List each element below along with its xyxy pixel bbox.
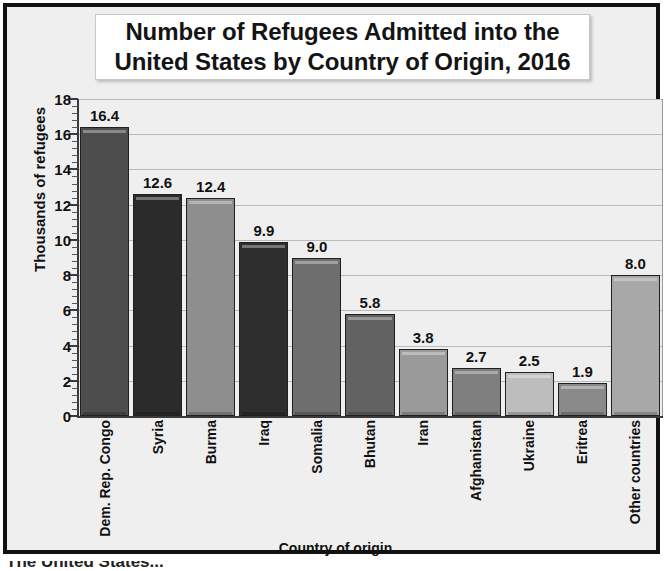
category-slot: Burma (184, 420, 237, 552)
bar[interactable] (133, 194, 182, 416)
bar[interactable] (611, 275, 660, 416)
bar-highlight (402, 352, 445, 355)
bar-value-label: 12.6 (131, 174, 184, 191)
bar-highlight (508, 375, 551, 378)
bar-slot: 12.4 (184, 99, 237, 416)
chart-frame: Number of Refugees Admitted into the Uni… (3, 3, 660, 554)
category-label: Afghanistan (468, 420, 484, 501)
category-label: Bhutan (362, 420, 378, 468)
bar[interactable] (505, 372, 554, 416)
bar-shadow (561, 412, 604, 415)
x-axis-category-labels: Dem. Rep. CongoSyriaBurmaIraqSomaliaBhut… (78, 420, 662, 552)
bar-shadow (614, 412, 657, 415)
y-axis-tick-label: 18 (47, 91, 71, 108)
bar-value-label: 9.9 (237, 222, 290, 239)
bar-shadow (189, 412, 232, 415)
bar-value-label: 8.0 (609, 255, 662, 272)
bar-shadow (402, 412, 445, 415)
bar-value-label: 12.4 (184, 178, 237, 195)
bar-shadow (83, 412, 126, 415)
category-slot: Ukraine (503, 420, 556, 552)
bar[interactable] (558, 383, 607, 416)
category-label: Iraq (256, 420, 272, 446)
plot-right-border (662, 99, 663, 417)
cut-off-caption: The United States... (6, 561, 406, 571)
bar-value-label: 2.7 (450, 348, 503, 365)
y-axis-tick-label: 8 (47, 267, 71, 284)
bar-shadow (295, 412, 338, 415)
bar-shadow (136, 412, 179, 415)
bar-slot: 5.8 (343, 99, 396, 416)
bar-slot: 2.5 (503, 99, 556, 416)
category-label: Dem. Rep. Congo (97, 420, 113, 537)
bar-value-label: 1.9 (556, 363, 609, 380)
bar-value-label: 9.0 (290, 238, 343, 255)
bar[interactable] (292, 258, 341, 417)
bar-slot: 12.6 (131, 99, 184, 416)
chart-title-line-1: Number of Refugees Admitted into the (125, 17, 559, 47)
category-slot: Iran (397, 420, 450, 552)
bar-slot: 16.4 (78, 99, 131, 416)
bar-shadow (455, 412, 498, 415)
y-axis-tick-label: 6 (47, 302, 71, 319)
bar-highlight (189, 201, 232, 204)
y-axis-tick-label: 10 (47, 231, 71, 248)
bar-shadow (348, 412, 391, 415)
category-label: Eritrea (574, 420, 590, 464)
category-slot: Iraq (237, 420, 290, 552)
category-label: Iran (415, 420, 431, 446)
x-axis-title: Country of origin (7, 540, 664, 556)
y-axis-tick-label: 4 (47, 337, 71, 354)
chart-title-box: Number of Refugees Admitted into the Uni… (95, 14, 590, 80)
y-axis-tick-label: 14 (47, 161, 71, 178)
cut-off-caption-text: The United States... (6, 561, 406, 571)
category-label: Other countries (627, 420, 643, 524)
bar[interactable] (345, 314, 394, 416)
chart-title-line-2: United States by Country of Origin, 2016 (114, 47, 570, 77)
category-label: Ukraine (521, 420, 537, 471)
bar[interactable] (80, 127, 129, 416)
chart-screenshot: Number of Refugees Admitted into the Uni… (0, 0, 669, 571)
category-slot: Afghanistan (450, 420, 503, 552)
bar-value-label: 16.4 (78, 107, 131, 124)
bar-highlight (242, 245, 285, 248)
bar-value-label: 5.8 (343, 294, 396, 311)
x-axis-line (77, 416, 663, 418)
bar-value-label: 3.8 (397, 329, 450, 346)
y-axis-tick-label: 0 (47, 408, 71, 425)
bar-highlight (561, 386, 604, 389)
bar[interactable] (399, 349, 448, 416)
bar-highlight (136, 197, 179, 200)
category-label: Burma (203, 420, 219, 464)
bar[interactable] (239, 242, 288, 416)
bar-slot: 2.7 (450, 99, 503, 416)
y-axis-tick-label: 12 (47, 196, 71, 213)
category-slot: Bhutan (343, 420, 396, 552)
bars-layer: 16.412.612.49.99.05.83.82.72.51.98.0 (78, 99, 662, 416)
bar-highlight (348, 317, 391, 320)
bar-highlight (455, 371, 498, 374)
y-axis-tick-label: 2 (47, 372, 71, 389)
bar-highlight (614, 278, 657, 281)
category-slot: Eritrea (556, 420, 609, 552)
category-label: Somalia (309, 420, 325, 474)
bar-shadow (508, 412, 551, 415)
bar-slot: 9.0 (290, 99, 343, 416)
y-axis-title: Thousands of refugees (31, 80, 48, 300)
bar-highlight (295, 261, 338, 264)
bar-slot: 3.8 (397, 99, 450, 416)
bar[interactable] (452, 368, 501, 416)
bar[interactable] (186, 198, 235, 416)
category-slot: Other countries (609, 420, 662, 552)
y-axis-tick-label: 16 (47, 126, 71, 143)
bar-value-label: 2.5 (503, 352, 556, 369)
bar-highlight (83, 130, 126, 133)
category-label: Syria (150, 420, 166, 454)
bar-shadow (242, 412, 285, 415)
bar-slot: 1.9 (556, 99, 609, 416)
bar-slot: 8.0 (609, 99, 662, 416)
category-slot: Dem. Rep. Congo (78, 420, 131, 552)
bar-slot: 9.9 (237, 99, 290, 416)
category-slot: Somalia (290, 420, 343, 552)
category-slot: Syria (131, 420, 184, 552)
